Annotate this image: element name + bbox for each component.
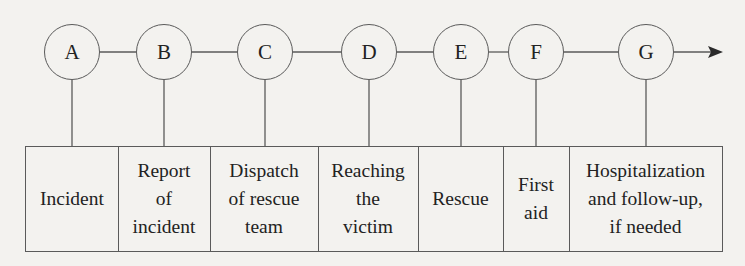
stage-box-rescue: Rescue: [418, 146, 504, 252]
node-e: E: [433, 24, 489, 80]
stage-box-hospitalization: Hospitalization and follow-up, if needed: [569, 146, 723, 252]
stage-box-report-of-incident: Report of incident: [118, 146, 211, 252]
stage-box-incident: Incident: [25, 146, 119, 252]
node-a: A: [44, 24, 100, 80]
stage-box-dispatch-of-rescue-team: Dispatch of rescue team: [210, 146, 319, 252]
node-g: G: [618, 24, 674, 80]
node-c: C: [237, 24, 293, 80]
stage-box-reaching-the-victim: Reaching the victim: [318, 146, 419, 252]
rescue-process-diagram: A B C D E F G Incident Report of inciden…: [0, 0, 745, 266]
stage-box-first-aid: First aid: [503, 146, 570, 252]
node-b: B: [136, 24, 192, 80]
node-f: F: [508, 24, 564, 80]
node-d: D: [341, 24, 397, 80]
